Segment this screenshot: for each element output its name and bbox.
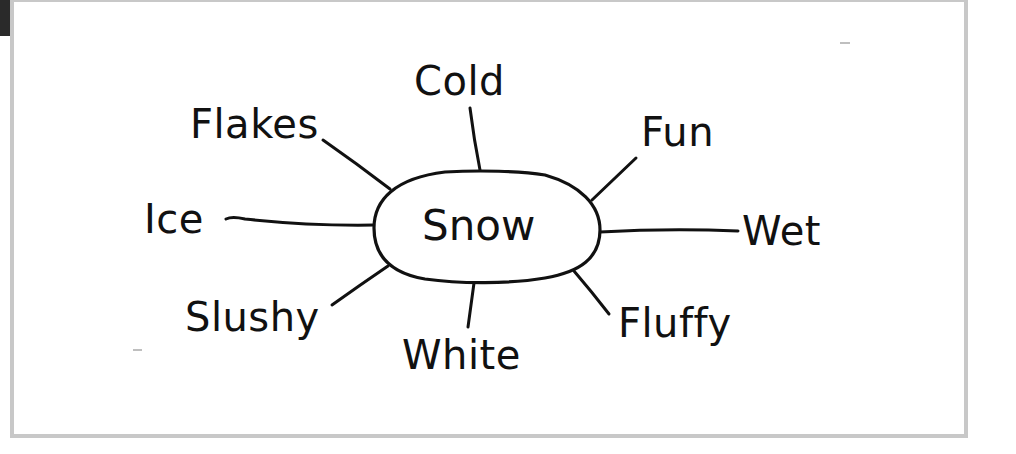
word-flakes: Flakes	[190, 101, 319, 147]
spoke-ice	[226, 218, 374, 226]
word-slushy: Slushy	[185, 294, 320, 340]
spoke-white	[468, 283, 474, 327]
word-cold: Cold	[414, 58, 505, 104]
center-label: Snow	[422, 201, 535, 250]
word-wet: Wet	[742, 208, 821, 254]
spoke-flakes	[323, 140, 390, 189]
word-fluffy: Fluffy	[618, 300, 732, 346]
word-ice: Ice	[144, 196, 204, 242]
spoke-slushy	[332, 266, 388, 305]
spoke-wet	[600, 230, 738, 232]
spoke-cold	[470, 108, 480, 170]
word-white: White	[402, 332, 521, 378]
word-web-diagram: Snow Cold Flakes Fun Ice Wet Slushy Whit…	[0, 0, 1016, 454]
word-fun: Fun	[641, 109, 714, 155]
spoke-fluffy	[574, 271, 609, 314]
spoke-fun	[592, 158, 636, 200]
